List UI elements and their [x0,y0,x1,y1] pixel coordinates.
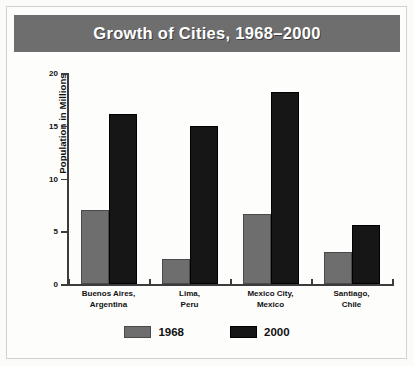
category-label-line: Santiago, [311,289,392,300]
category-label-line: Buenos Aires, [68,289,149,300]
bar-2000-1 [190,126,218,284]
chart-title-banner: Growth of Cities, 1968–2000 [14,15,400,52]
category-label-line: Argentina [68,300,149,311]
bar-1968-2 [243,214,271,284]
bar-2000-3 [352,225,380,284]
bar-1968-0 [81,210,109,284]
category-label-line: Chile [311,300,392,311]
x-axis-tick [392,279,394,286]
y-axis-tick [61,231,68,233]
y-axis-tick-label: 20 [18,69,58,78]
plot-area: Population in Millions 05101520 Buenos A… [14,60,400,310]
y-axis-tick [61,73,68,75]
y-axis-tick-label: 10 [18,174,58,183]
chart-figure: Growth of Cities, 1968–2000 Population i… [0,0,414,366]
x-axis-category-labels: Buenos Aires,ArgentinaLima,PeruMexico Ci… [68,289,392,323]
category-label-line: Peru [149,300,230,311]
legend-swatch-1968-icon [124,326,151,338]
chart-title: Growth of Cities, 1968–2000 [93,24,320,43]
bars-layer [68,73,392,284]
chart-legend: 1968 2000 [14,322,400,342]
y-axis-tick-label: 15 [18,121,58,130]
legend-item-2000: 2000 [230,326,290,338]
y-axis-tick-label: 5 [18,227,58,236]
y-axis-tick [61,284,68,286]
bar-1968-1 [162,259,190,284]
x-axis-category-label: Santiago,Chile [311,289,392,310]
x-axis-category-label: Buenos Aires,Argentina [68,289,149,310]
legend-swatch-2000-icon [230,326,257,338]
y-axis-tick-label: 0 [18,280,58,289]
bar-2000-0 [109,114,137,284]
category-label-line: Mexico City, [230,289,311,300]
y-axis-tick [61,126,68,128]
bar-2000-2 [271,92,299,284]
legend-label-2000: 2000 [264,326,290,338]
x-axis-category-label: Mexico City,Mexico [230,289,311,310]
y-axis-tick [61,179,68,181]
legend-label-1968: 1968 [158,326,184,338]
bar-1968-3 [324,252,352,284]
category-label-line: Lima, [149,289,230,300]
category-label-line: Mexico [230,300,311,311]
x-axis-category-label: Lima,Peru [149,289,230,310]
legend-item-1968: 1968 [124,326,184,338]
